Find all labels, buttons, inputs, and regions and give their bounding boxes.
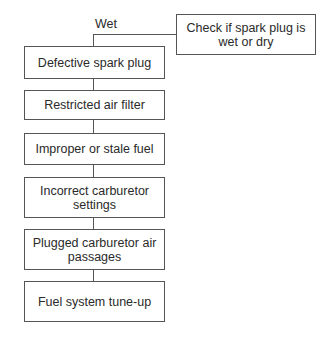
connector-2-3 bbox=[93, 120, 94, 133]
step-box-incorrect-carburetor-settings: Incorrect carburetor settings bbox=[24, 177, 165, 218]
connector-horizontal bbox=[93, 34, 176, 35]
connector-4-5 bbox=[93, 218, 94, 229]
connector-1-2 bbox=[93, 79, 94, 90]
step-box-plugged-carburetor-air-passages: Plugged carburetor air passages bbox=[24, 229, 165, 270]
step-box-improper-stale-fuel: Improper or stale fuel bbox=[24, 133, 165, 165]
connector-vertical bbox=[93, 34, 94, 46]
connector-5-6 bbox=[93, 270, 94, 281]
branch-label-wet: Wet bbox=[95, 17, 117, 31]
start-box-check-spark-plug: Check if spark plug is wet or dry bbox=[176, 14, 316, 55]
connector-3-4 bbox=[93, 165, 94, 177]
step-box-restricted-air-filter: Restricted air filter bbox=[24, 90, 165, 120]
step-box-fuel-system-tune-up: Fuel system tune-up bbox=[24, 281, 165, 322]
step-box-defective-spark-plug: Defective spark plug bbox=[24, 46, 165, 79]
